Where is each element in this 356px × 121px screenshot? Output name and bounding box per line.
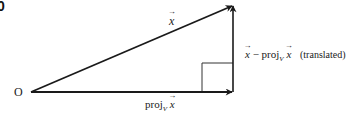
diff-vec2-symbol: x [286, 49, 291, 60]
x-vector-label: x [169, 15, 174, 27]
proj-subscript: V [163, 105, 167, 113]
proj-vec-symbol: x [170, 99, 175, 110]
origin-label: O [14, 86, 23, 98]
projection-diagram: 0 O x projV x x − projV x (translated) [0, 0, 356, 121]
diff-vec-symbol: x [245, 49, 250, 60]
right-angle-marker [202, 63, 233, 92]
difference-label: x − projV x (translated) [245, 49, 346, 63]
x-vec-symbol: x [169, 15, 174, 27]
diff-proj-text: proj [262, 48, 280, 60]
translated-note: (translated) [300, 49, 346, 60]
diff-minus: − [250, 48, 262, 60]
proj-text: proj [145, 98, 163, 110]
diff-proj-subscript: V [279, 55, 283, 63]
projection-label: projV x [145, 99, 175, 113]
